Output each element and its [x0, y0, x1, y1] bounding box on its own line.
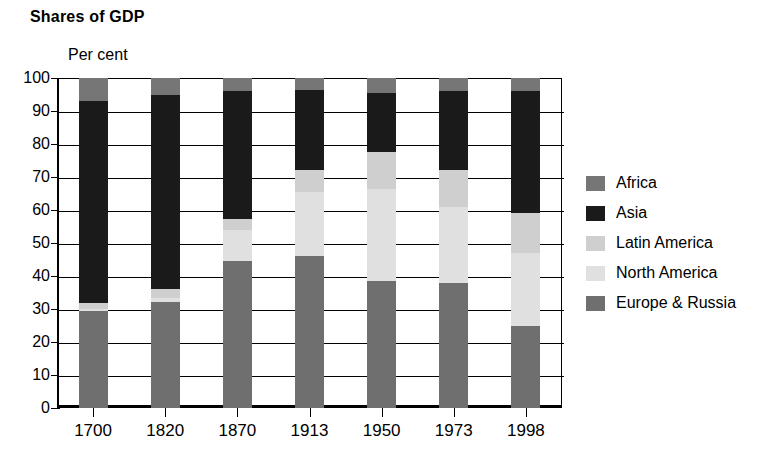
- bar-segment-north-america[interactable]: [439, 207, 468, 283]
- bar-segment-asia[interactable]: [79, 101, 108, 303]
- bar-segment-africa[interactable]: [439, 78, 468, 91]
- bar-segment-north-america[interactable]: [367, 189, 396, 281]
- legend-label: Latin America: [616, 234, 713, 252]
- y-axis-tick-label: 10: [32, 366, 50, 384]
- x-axis-tick-label-1973: 1973: [435, 421, 473, 441]
- bar-segment-asia[interactable]: [367, 93, 396, 152]
- x-axis-tick-label-1913: 1913: [291, 421, 329, 441]
- x-axis-tick-label-1820: 1820: [146, 421, 184, 441]
- x-axis-tick-label-1998: 1998: [507, 421, 545, 441]
- y-axis-tick-label: 0: [41, 399, 50, 417]
- bar-segment-africa[interactable]: [151, 78, 180, 95]
- x-axis-tick-mark: [237, 408, 238, 417]
- chart-legend: AfricaAsiaLatin AmericaNorth AmericaEuro…: [586, 168, 781, 318]
- bar-segment-latin-america[interactable]: [295, 170, 324, 191]
- bar-segment-asia[interactable]: [511, 91, 540, 213]
- bar-segment-asia[interactable]: [151, 95, 180, 290]
- x-axis-tick-mark: [310, 408, 311, 417]
- x-axis-tick-mark: [93, 408, 94, 417]
- bar-segment-africa[interactable]: [367, 78, 396, 93]
- bar-1700[interactable]: [79, 78, 108, 408]
- y-axis-tick-label: 20: [32, 333, 50, 351]
- bar-segment-europe-russia[interactable]: [367, 281, 396, 408]
- legend-swatch-icon: [586, 236, 605, 251]
- legend-label: Europe & Russia: [616, 294, 736, 312]
- legend-item-europe-russia[interactable]: Europe & Russia: [586, 288, 781, 318]
- x-axis-tick-label-1870: 1870: [218, 421, 256, 441]
- legend-item-africa[interactable]: Africa: [586, 168, 781, 198]
- legend-item-north-america[interactable]: North America: [586, 258, 781, 288]
- legend-swatch-icon: [586, 266, 605, 281]
- bar-segment-africa[interactable]: [511, 78, 540, 91]
- bar-segment-africa[interactable]: [295, 78, 324, 90]
- legend-item-latin-america[interactable]: Latin America: [586, 228, 781, 258]
- bar-segment-africa[interactable]: [79, 78, 108, 101]
- bar-segment-europe-russia[interactable]: [295, 256, 324, 408]
- bar-segment-asia[interactable]: [295, 90, 324, 171]
- legend-swatch-icon: [586, 296, 605, 311]
- legend-label: Asia: [616, 204, 647, 222]
- bar-1870[interactable]: [223, 78, 252, 408]
- y-axis-tick-label: 70: [32, 168, 50, 186]
- page-title: Shares of GDP: [30, 8, 145, 26]
- bar-segment-north-america[interactable]: [223, 230, 252, 261]
- bar-segment-europe-russia[interactable]: [511, 326, 540, 409]
- bar-1973[interactable]: [439, 78, 468, 408]
- legend-swatch-icon: [586, 206, 605, 221]
- y-axis-label: Per cent: [68, 46, 128, 64]
- y-axis-tick-label: 100: [23, 69, 50, 87]
- bar-1820[interactable]: [151, 78, 180, 408]
- legend-item-asia[interactable]: Asia: [586, 198, 781, 228]
- bar-1998[interactable]: [511, 78, 540, 408]
- bar-1950[interactable]: [367, 78, 396, 408]
- bar-segment-latin-america[interactable]: [223, 219, 252, 230]
- bar-segment-africa[interactable]: [223, 78, 252, 91]
- legend-label: North America: [616, 264, 717, 282]
- bar-segment-latin-america[interactable]: [151, 289, 180, 298]
- bar-segment-latin-america[interactable]: [439, 170, 468, 206]
- bar-segment-north-america[interactable]: [511, 253, 540, 326]
- x-axis: 1700182018701913195019731998: [57, 408, 562, 458]
- bar-segment-asia[interactable]: [439, 91, 468, 170]
- bar-1913[interactable]: [295, 78, 324, 408]
- legend-swatch-icon: [586, 176, 605, 191]
- y-axis-tick-label: 80: [32, 135, 50, 153]
- y-axis-tick-label: 50: [32, 234, 50, 252]
- bar-segment-latin-america[interactable]: [511, 213, 540, 253]
- bar-segment-latin-america[interactable]: [367, 152, 396, 188]
- legend-label: Africa: [616, 174, 657, 192]
- y-axis-tick-label: 30: [32, 300, 50, 318]
- x-axis-tick-label-1950: 1950: [363, 421, 401, 441]
- x-axis-tick-mark: [526, 408, 527, 417]
- x-axis-tick-mark: [165, 408, 166, 417]
- bar-segment-europe-russia[interactable]: [223, 261, 252, 408]
- y-axis-tick-label: 60: [32, 201, 50, 219]
- y-axis-tick-label: 40: [32, 267, 50, 285]
- bar-segment-europe-russia[interactable]: [151, 302, 180, 408]
- y-axis-tick-label: 90: [32, 102, 50, 120]
- bar-segment-europe-russia[interactable]: [79, 311, 108, 408]
- x-axis-tick-mark: [382, 408, 383, 417]
- bar-segment-north-america[interactable]: [295, 192, 324, 256]
- bar-segment-europe-russia[interactable]: [439, 283, 468, 408]
- plot-area-wrapper: [57, 78, 562, 408]
- bar-segment-asia[interactable]: [223, 91, 252, 218]
- x-axis-tick-mark: [454, 408, 455, 417]
- x-axis-tick-label-1700: 1700: [74, 421, 112, 441]
- y-axis-tick-labels: 0102030405060708090100: [10, 78, 50, 408]
